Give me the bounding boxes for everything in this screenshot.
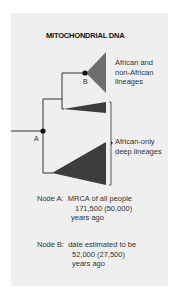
node-a-note: Node A: MRCA of all people 171,500 (50,0… — [37, 194, 132, 223]
note-prefix: Node A: — [37, 194, 64, 203]
note-line: date estimated to be — [68, 240, 136, 249]
note-line: MRCA of all people — [68, 194, 132, 203]
note-row: years ago — [37, 259, 136, 269]
note-line: 52,000 (27,500) — [72, 250, 125, 259]
note-prefix: Node B: — [37, 240, 64, 249]
node-b-label: B — [83, 78, 88, 85]
bracket-pointer — [111, 141, 113, 145]
clade-label-line: lineages — [115, 77, 153, 87]
clade-african-non-african-wedge — [86, 52, 106, 93]
node-a-label: A — [34, 135, 39, 142]
note-line: 171,500 (50,000) — [75, 204, 132, 213]
clade-label-african-only: African-only deep lineages — [115, 137, 162, 156]
deep-lineage-wedge-large — [52, 142, 106, 185]
clade-label-line: African and — [115, 58, 153, 68]
note-row: Node B: date estimated to be — [37, 240, 136, 250]
clade-label-line: African-only — [115, 137, 162, 147]
note-line: years ago — [72, 259, 105, 268]
note-row: years ago — [37, 213, 132, 223]
note-row: 52,000 (27,500) — [37, 250, 136, 260]
note-row: 171,500 (50,000) — [37, 204, 132, 214]
node-b-dot — [82, 70, 87, 75]
node-b-note: Node B: date estimated to be 52,000 (27,… — [37, 240, 136, 269]
african-only-bracket — [109, 102, 111, 185]
node-a-dot — [40, 128, 45, 133]
note-line: years ago — [71, 213, 104, 222]
clade-label-line: deep lineages — [115, 147, 162, 157]
note-row: Node A: MRCA of all people — [37, 194, 132, 204]
clade-label-line: non-African — [115, 68, 153, 78]
deep-lineage-wedge-small — [63, 102, 106, 113]
clade-label-african-non-african: African and non-African lineages — [115, 58, 153, 87]
